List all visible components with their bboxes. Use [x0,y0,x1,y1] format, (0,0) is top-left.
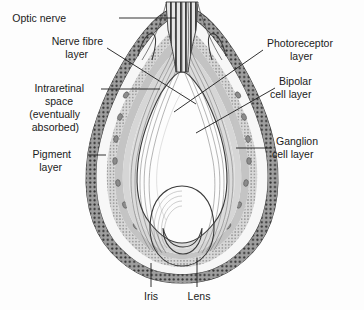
label-bipolar-line1: Bipolar [279,75,312,87]
label-intraretinal-line3: (eventually [29,108,81,120]
eye-anatomy-diagram: Optic nerve Nerve fibre layer Intraretin… [0,0,364,310]
label-intraretinal-line2: space [45,95,73,107]
label-ganglion-line2: cell layer [272,148,314,160]
eye-cross-section-figure: Optic nerve Nerve fibre layer Intraretin… [0,0,364,310]
label-nerve-fibre-line1: Nerve fibre [52,35,104,47]
label-pigment-line2: layer [39,161,62,173]
label-photoreceptor-line2: layer [290,50,313,62]
label-intraretinal-line4: absorbed) [32,121,79,133]
label-lens: Lens [188,290,211,302]
label-nerve-fibre-line2: layer [65,48,88,60]
label-bipolar-line2: cell layer [270,88,312,100]
label-pigment-line1: Pigment [32,148,71,160]
label-iris: Iris [144,290,158,302]
label-photoreceptor-line1: Photoreceptor [267,37,333,49]
label-optic-nerve: Optic nerve [12,12,66,24]
label-ganglion-line1: Ganglion [276,135,318,147]
label-intraretinal-line1: Intraretinal [34,82,84,94]
